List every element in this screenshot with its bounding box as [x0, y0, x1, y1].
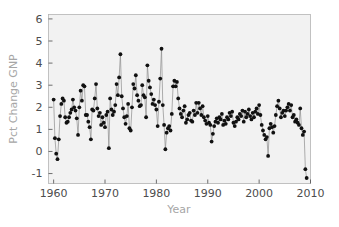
- data-point: [226, 118, 230, 122]
- data-point: [255, 106, 259, 110]
- y-tick-label: 0: [36, 145, 43, 158]
- data-point: [83, 84, 87, 88]
- data-point: [120, 94, 124, 98]
- data-point: [289, 103, 293, 107]
- data-point: [188, 111, 192, 115]
- data-point: [63, 115, 67, 119]
- data-point: [95, 106, 99, 110]
- y-tick-label: 6: [36, 13, 43, 26]
- data-point: [112, 110, 116, 114]
- data-point: [294, 118, 298, 122]
- data-point: [163, 147, 167, 151]
- x-tick-label: 1990: [194, 187, 222, 200]
- data-point: [133, 87, 137, 91]
- y-tick-label: 4: [36, 57, 43, 70]
- data-point: [210, 140, 214, 144]
- data-point: [271, 131, 275, 135]
- data-point: [176, 97, 180, 101]
- data-point: [273, 124, 277, 128]
- data-point: [54, 152, 58, 156]
- data-point: [216, 121, 220, 125]
- data-point: [233, 124, 237, 128]
- data-point: [145, 63, 149, 67]
- data-point: [284, 109, 288, 113]
- data-point: [111, 113, 115, 117]
- data-point: [219, 118, 223, 122]
- data-point: [185, 118, 189, 122]
- y-tick-label: -1: [32, 167, 43, 180]
- data-point: [68, 111, 72, 115]
- x-tick-label: 1960: [40, 187, 68, 200]
- data-point: [244, 115, 248, 119]
- data-point: [157, 100, 161, 104]
- data-point: [56, 157, 60, 161]
- data-point: [220, 112, 224, 116]
- data-point: [59, 102, 63, 106]
- data-point: [85, 113, 89, 117]
- data-point: [266, 154, 270, 158]
- data-point: [101, 115, 105, 119]
- data-point: [125, 114, 129, 118]
- data-point: [179, 112, 183, 116]
- data-point: [229, 114, 233, 118]
- data-point: [89, 137, 93, 141]
- data-point: [88, 125, 92, 129]
- data-point: [67, 115, 71, 119]
- data-point: [97, 114, 101, 118]
- data-point: [260, 123, 264, 127]
- data-point: [174, 84, 178, 88]
- data-point: [117, 76, 121, 80]
- data-point: [300, 126, 304, 130]
- data-point: [130, 105, 134, 109]
- data-point: [239, 114, 243, 118]
- data-point: [153, 103, 157, 107]
- data-point: [58, 114, 62, 118]
- data-point: [288, 109, 292, 113]
- y-tick-label: 1: [36, 123, 43, 136]
- data-point: [147, 79, 151, 83]
- data-point: [184, 121, 188, 125]
- data-point: [94, 82, 98, 86]
- data-point: [62, 99, 66, 103]
- data-point: [265, 135, 269, 139]
- data-point: [301, 133, 305, 137]
- data-point: [160, 47, 164, 51]
- data-point: [124, 122, 128, 126]
- data-point: [206, 114, 210, 118]
- data-point: [102, 121, 106, 125]
- data-point: [274, 113, 278, 117]
- data-point: [248, 114, 252, 118]
- data-point: [72, 105, 76, 109]
- data-point: [86, 120, 90, 124]
- data-point: [183, 104, 187, 108]
- data-point: [104, 113, 108, 117]
- data-point: [298, 106, 302, 110]
- data-point: [148, 86, 152, 90]
- data-point: [247, 108, 251, 112]
- data-point: [279, 115, 283, 119]
- data-point: [203, 119, 207, 123]
- data-point: [197, 101, 201, 105]
- data-point: [143, 95, 147, 99]
- data-point: [180, 115, 184, 119]
- x-tick-label: 2010: [297, 187, 325, 200]
- data-point: [305, 176, 309, 180]
- data-point: [140, 83, 144, 87]
- x-axis-title: Year: [166, 203, 191, 216]
- data-point: [53, 136, 57, 140]
- data-point: [237, 118, 241, 122]
- data-point: [129, 129, 133, 133]
- gnp-scatter-chart: -10123456 196019701980199020002010 Year …: [0, 0, 339, 227]
- data-point: [242, 120, 246, 124]
- data-point: [75, 116, 79, 120]
- data-point: [92, 109, 96, 113]
- data-point: [202, 115, 206, 119]
- data-point: [71, 98, 75, 102]
- data-point: [196, 111, 200, 115]
- data-point: [144, 115, 148, 119]
- data-point: [208, 123, 212, 127]
- data-point: [152, 98, 156, 102]
- data-point: [66, 120, 70, 124]
- data-point: [121, 106, 125, 110]
- y-tick-label: 3: [36, 79, 43, 92]
